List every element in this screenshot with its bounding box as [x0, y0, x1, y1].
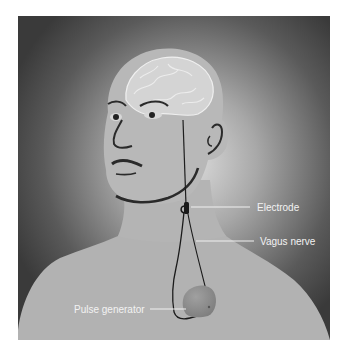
label-electrode: Electrode [257, 202, 300, 213]
diagram-canvas: Electrode Vagus nerve Pulse generator [0, 0, 345, 353]
generator-port [208, 306, 210, 308]
pupil-left [113, 114, 119, 120]
vns-diagram: Electrode Vagus nerve Pulse generator [0, 0, 345, 353]
electrode-coil [184, 202, 189, 214]
pupil-right [149, 112, 155, 118]
label-pulse-generator: Pulse generator [74, 304, 145, 315]
label-vagus-nerve: Vagus nerve [260, 236, 316, 247]
